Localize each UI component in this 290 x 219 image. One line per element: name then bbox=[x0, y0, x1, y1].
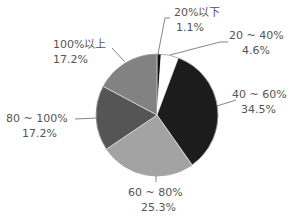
slice-label-value: 17.2% bbox=[53, 53, 88, 66]
leader-line-slice-0 bbox=[158, 18, 170, 54]
slice-label-value: 17.2% bbox=[22, 127, 57, 140]
slice-label-name: 100%以上 bbox=[53, 38, 106, 51]
slice-label-value: 4.6% bbox=[242, 44, 270, 57]
slice-label-name: 40 ~ 60% bbox=[232, 88, 287, 101]
leader-line-slice-5 bbox=[112, 48, 125, 62]
slice-label-value: 34.5% bbox=[241, 103, 276, 116]
leader-line-slice-1 bbox=[170, 42, 228, 55]
slice-label-name: 60 ~ 80% bbox=[128, 186, 183, 199]
slice-label-name: 20 ~ 40% bbox=[229, 29, 284, 42]
leader-line-slice-4 bbox=[75, 118, 97, 119]
slice-label-name: 80 ~ 100% bbox=[6, 112, 68, 125]
slice-label-name: 20%以下 bbox=[174, 6, 220, 19]
pie-chart: 20%以下 1.1% 20 ~ 40% 4.6% 40 ~ 60% 34.5% … bbox=[0, 0, 290, 219]
slice-label-value: 25.3% bbox=[141, 201, 176, 214]
pie-slices bbox=[96, 54, 218, 176]
slice-label-value: 1.1% bbox=[176, 21, 204, 34]
